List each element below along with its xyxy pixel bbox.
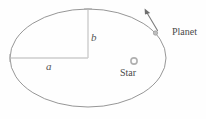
star-label: Star xyxy=(120,68,136,78)
velocity-arrow-icon xyxy=(145,9,158,31)
semi-major-axis-label: a xyxy=(46,61,52,72)
star-marker-icon xyxy=(131,58,137,64)
semi-minor-axis-label: b xyxy=(91,32,97,43)
orbit-diagram-figure: b a Star Planet xyxy=(0,0,206,119)
planet-marker-icon xyxy=(153,31,157,35)
orbit-diagram-canvas xyxy=(0,0,206,119)
planet-label: Planet xyxy=(172,27,197,37)
